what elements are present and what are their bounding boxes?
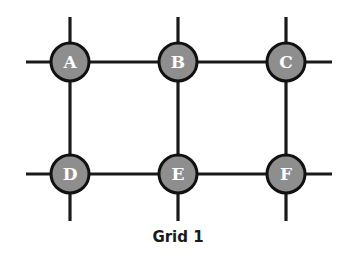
node-label: D: [63, 164, 78, 184]
node-d: D: [51, 155, 89, 193]
node-label: F: [280, 164, 292, 184]
node-label: B: [171, 52, 185, 72]
node-f: F: [267, 155, 305, 193]
diagram-caption: Grid 1: [0, 228, 356, 246]
grid-diagram: ABCDEF: [0, 0, 356, 254]
node-c: C: [267, 43, 305, 81]
node-label: E: [172, 164, 185, 184]
node-a: A: [51, 43, 89, 81]
node-label: C: [279, 52, 293, 72]
node-label: A: [62, 52, 77, 72]
node-b: B: [159, 43, 197, 81]
node-e: E: [159, 155, 197, 193]
